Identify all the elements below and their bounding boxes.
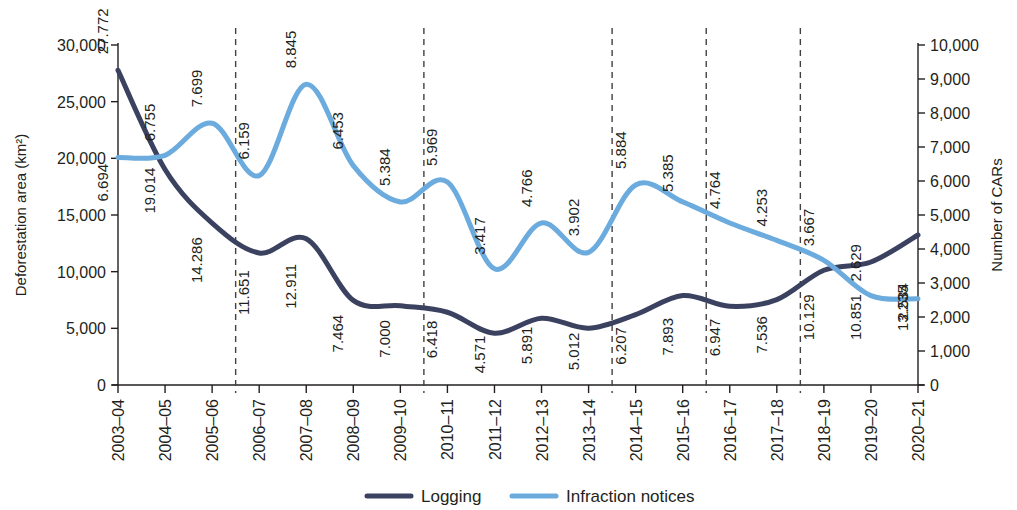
data-label: 7.699 — [188, 70, 205, 108]
data-label: 19.014 — [141, 168, 158, 214]
data-label: 6.207 — [612, 327, 629, 365]
data-label: 5.385 — [659, 154, 676, 192]
x-axis-category-label: 2018–19 — [816, 399, 833, 461]
data-label: 2.534 — [894, 283, 911, 321]
legend-label-logging: Logging — [421, 487, 482, 506]
data-label: 7.464 — [329, 315, 346, 353]
line-chart-svg: Deforestation area (km²) Number of CARs … — [0, 0, 1017, 510]
data-label: 12.911 — [282, 264, 299, 309]
data-label: 4.766 — [518, 169, 535, 207]
right-axis-tick-label: 10,000 — [930, 37, 979, 54]
x-axis-category-label: 2015–16 — [675, 399, 692, 461]
x-axis-category-label: 2019–20 — [863, 399, 880, 461]
left-axis-tick-label: 25,000 — [57, 94, 106, 111]
data-label: 4.764 — [706, 171, 723, 209]
data-point-labels: 27.77219.01414.28611.65112.9117.4647.000… — [94, 8, 911, 373]
data-label: 10.129 — [800, 294, 817, 340]
x-axis-category-label: 2020–21 — [910, 399, 927, 461]
right-axis-title-group: Number of CARs — [988, 158, 1005, 271]
x-axis-category-label: 2011–12 — [487, 399, 504, 460]
data-label: 3.417 — [471, 217, 488, 255]
left-axis-title-group: Deforestation area (km²) — [12, 134, 29, 297]
left-axis-tick-label: 0 — [97, 377, 106, 394]
data-label: 8.845 — [282, 31, 299, 69]
right-axis-tick-label: 8,000 — [930, 105, 970, 122]
x-axis — [112, 385, 924, 393]
data-label: 5.884 — [612, 131, 629, 169]
data-label: 6.159 — [235, 122, 252, 160]
right-axis-tick-label: 4,000 — [930, 241, 970, 258]
data-label: 4.253 — [753, 189, 770, 227]
right-y-axis: 01,0002,0003,0004,0005,0006,0007,0008,00… — [918, 37, 979, 394]
left-axis-title: Deforestation area (km²) — [12, 134, 29, 297]
data-label: 2.629 — [847, 244, 864, 282]
x-axis-category-label: 2009–10 — [392, 399, 409, 461]
data-label: 6.694 — [94, 164, 111, 202]
x-axis-category-label: 2010–11 — [439, 399, 456, 460]
left-axis-tick-label: 5,000 — [66, 320, 106, 337]
data-label: 5.969 — [423, 129, 440, 167]
category-labels: 2003–042004–052005–062006–072007–082008–… — [110, 399, 927, 461]
right-axis-tick-label: 1,000 — [930, 343, 970, 360]
data-label: 3.667 — [800, 209, 817, 247]
data-label: 11.651 — [235, 270, 252, 315]
data-label: 3.902 — [565, 199, 582, 237]
x-axis-category-label: 2004–05 — [157, 399, 174, 461]
data-label: 5.012 — [565, 333, 582, 371]
data-label: 6.418 — [423, 321, 440, 359]
right-axis-tick-label: 0 — [930, 377, 939, 394]
x-axis-category-label: 2006–07 — [251, 399, 268, 461]
left-y-axis: 05,00010,00015,00020,00025,00030,000 — [57, 37, 118, 394]
x-axis-category-label: 2012–13 — [534, 399, 551, 461]
x-axis-category-label: 2003–04 — [110, 399, 127, 461]
data-label: 6.755 — [141, 104, 158, 142]
x-axis-category-label: 2008–09 — [345, 399, 362, 461]
x-axis-category-label: 2013–14 — [581, 399, 598, 461]
data-label: 5.384 — [376, 148, 393, 186]
data-label: 10.851 — [847, 294, 864, 340]
x-axis-category-label: 2007–08 — [298, 399, 315, 461]
data-label: 6.453 — [329, 112, 346, 150]
legend-label-infraction-notices: Infraction notices — [566, 487, 695, 506]
right-axis-tick-label: 9,000 — [930, 71, 970, 88]
left-axis-tick-label: 15,000 — [57, 207, 106, 224]
data-label: 14.286 — [188, 237, 205, 283]
data-label: 4.571 — [471, 336, 488, 374]
chart-legend: LoggingInfraction notices — [367, 487, 695, 506]
left-axis-tick-label: 10,000 — [57, 264, 106, 281]
data-label: 27.772 — [94, 8, 111, 54]
right-axis-title: Number of CARs — [988, 158, 1005, 271]
right-axis-tick-label: 3,000 — [930, 275, 970, 292]
x-axis-category-label: 2016–17 — [722, 399, 739, 461]
right-axis-tick-label: 7,000 — [930, 139, 970, 156]
right-axis-tick-label: 6,000 — [930, 173, 970, 190]
data-label: 5.891 — [518, 327, 535, 365]
right-axis-tick-label: 5,000 — [930, 207, 970, 224]
x-axis-category-label: 2017–18 — [769, 399, 786, 461]
x-axis-category-label: 2014–15 — [628, 399, 645, 461]
data-label: 6.947 — [706, 319, 723, 357]
data-label: 7.000 — [376, 320, 393, 358]
chart-figure: Deforestation area (km²) Number of CARs … — [0, 0, 1017, 510]
data-label: 7.893 — [659, 318, 676, 356]
right-axis-tick-label: 2,000 — [930, 309, 970, 326]
x-axis-category-label: 2005–06 — [204, 399, 221, 461]
data-label: 7.536 — [753, 316, 770, 354]
